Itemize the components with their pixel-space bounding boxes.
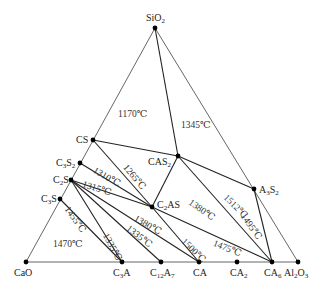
point-c3a	[120, 260, 125, 265]
temperature-label: 1345℃	[181, 121, 211, 131]
tie-line-cas2-a3s2	[178, 156, 254, 189]
vertex-label-sio2: SiO2	[146, 13, 165, 25]
compound-label-ca6: CA6	[264, 268, 281, 280]
point-sio2	[153, 26, 158, 31]
tie-line-cs-cas2	[93, 140, 178, 156]
compound-label-cas2: CAS2	[148, 157, 171, 169]
point-c12a7	[159, 260, 164, 265]
point-c2s	[69, 178, 74, 183]
temperature-label: 1170℃	[118, 110, 147, 120]
point-cas2	[176, 154, 181, 159]
point-al2o3	[296, 260, 301, 265]
compound-label-a3s2: A3S2	[259, 185, 279, 197]
tie-lines	[60, 28, 272, 262]
compound-label-cs: CS	[76, 135, 88, 145]
point-c3s	[58, 197, 63, 202]
point-ca2	[235, 260, 240, 265]
temperature-label: 1470℃	[53, 240, 83, 250]
point-a3s2	[252, 187, 257, 192]
compound-label-c3a: C3A	[113, 268, 130, 280]
compound-label-ca: CA	[193, 268, 207, 278]
compound-label-c3s2: C3S2	[56, 158, 75, 170]
point-cao	[24, 260, 29, 265]
compound-label-ca2: CA2	[230, 268, 247, 280]
compound-label-c3s: C3S	[41, 194, 57, 206]
point-ca6	[270, 260, 275, 265]
compound-label-c2as: C2AS	[157, 200, 180, 212]
point-c2as	[150, 205, 155, 210]
compound-label-c12a7: C12A7	[150, 268, 174, 280]
point-c3s2	[78, 161, 83, 166]
point-cs	[91, 138, 96, 143]
compound-label-c2s: C2S	[53, 175, 69, 187]
ternary-diagram	[0, 0, 327, 293]
vertex-label-cao: CaO	[14, 268, 32, 278]
vertex-label-al2o3: Al2O3	[284, 268, 308, 280]
